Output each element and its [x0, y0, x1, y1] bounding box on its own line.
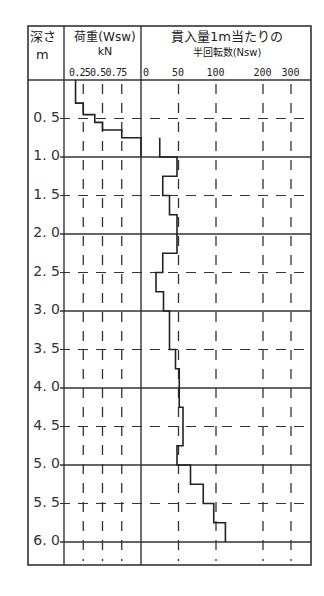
nsw-header-label: 貫入量1m当たりの: [142, 30, 312, 44]
depth-label: 0. 5: [26, 110, 60, 124]
depth-label: 5. 0: [26, 456, 60, 470]
depth-label: 4. 0: [26, 379, 60, 393]
depth-label: 4. 5: [26, 418, 60, 432]
nsw-tick-label: 0: [143, 67, 149, 78]
depth-label: 1. 5: [26, 187, 60, 201]
depth-label: 6. 0: [26, 533, 60, 547]
depth-header: 深さ m: [30, 30, 56, 62]
nsw-subheader-label: 半回転数(Nsw): [142, 47, 312, 58]
depth-label: 2. 5: [26, 264, 60, 278]
depth-label: 3. 5: [26, 341, 60, 355]
wsw-header: 荷重(Wsw) kN: [68, 30, 142, 59]
depth-label: 2. 0: [26, 225, 60, 239]
depth-unit-label: m: [30, 48, 56, 62]
chart-frame: [28, 26, 311, 565]
nsw-tick-label: 200: [253, 67, 271, 78]
wsw-unit-label: kN: [68, 45, 142, 59]
nsw-tick-label: 300: [281, 67, 299, 78]
wsw-tick-labels: 0.250.50.75: [69, 67, 126, 78]
depth-header-label: 深さ: [30, 30, 56, 44]
nsw-header: 貫入量1m当たりの 半回転数(Nsw): [142, 30, 312, 58]
nsw-tick-label: 100: [206, 67, 224, 78]
nsw-rotation-line: [156, 138, 225, 542]
wsw-header-label: 荷重(Wsw): [68, 30, 142, 44]
nsw-tick-label: 50: [172, 67, 184, 78]
depth-label: 5. 5: [26, 495, 60, 509]
depth-label: 3. 0: [26, 302, 60, 316]
depth-label: 1. 0: [26, 148, 60, 162]
